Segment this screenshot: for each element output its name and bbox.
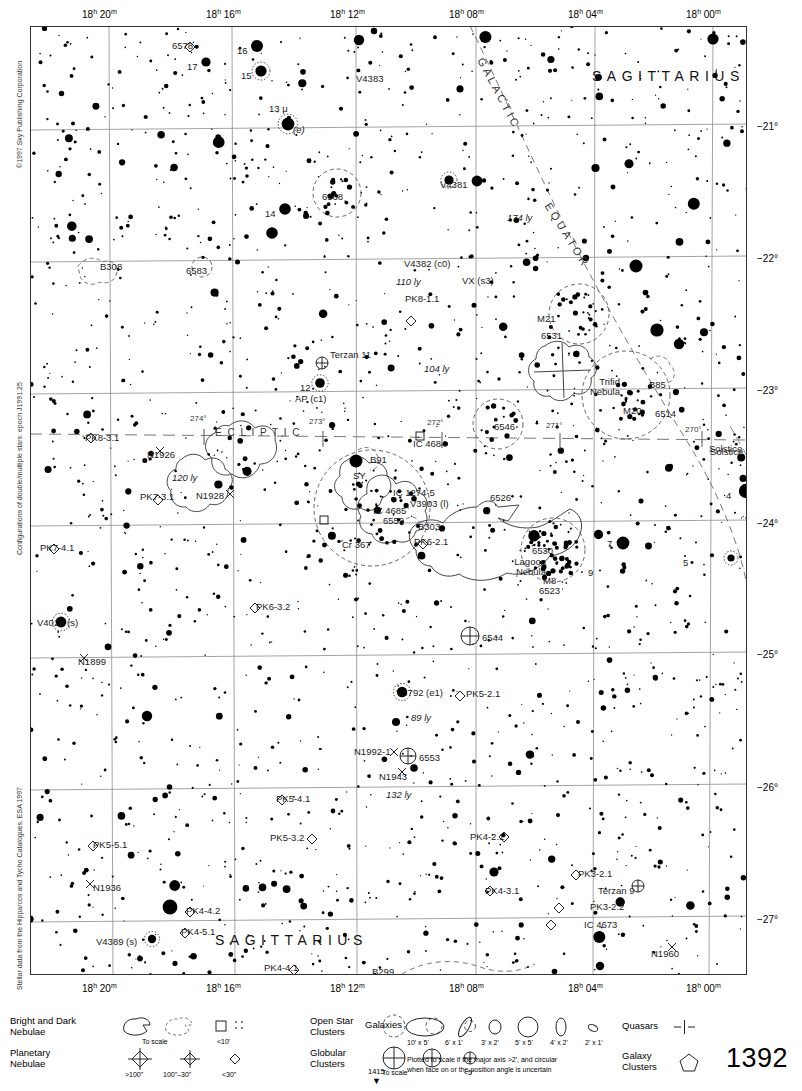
- ra-tick-bottom-1: 18h 16m: [206, 982, 241, 994]
- legend-galaxy-size-2: 3' x 2': [481, 1039, 499, 1046]
- object-label-68: PK5-5.1: [93, 840, 127, 850]
- legend-galaxy-size-4: 4' x 2': [550, 1039, 568, 1046]
- object-label-56: V4028 (s): [37, 618, 78, 628]
- legend-galaxy-size-5: 2' x 1': [585, 1039, 603, 1046]
- object-label-12: B308: [100, 262, 122, 272]
- legend-galaxy-size-0: 10' x 5': [407, 1039, 429, 1046]
- object-label-9: 6568: [322, 192, 343, 202]
- ra-tick-bottom-5: 18h 00m: [686, 982, 721, 994]
- dec-tick-4: −25°: [757, 649, 778, 660]
- legend-galaxy-size-1: 6' x 1': [445, 1039, 463, 1046]
- object-label-31: Solstice: [710, 447, 743, 457]
- legend-planetary-size-0: >100": [125, 1071, 143, 1078]
- page-number: 1392: [726, 1043, 788, 1074]
- object-label-74: PK3-2.2: [590, 902, 624, 912]
- legend-galaxy-note: Plotted to scale if the major axis >2', …: [407, 1055, 557, 1075]
- object-label-24: 12: [300, 383, 311, 393]
- object-label-81: B299: [372, 967, 394, 975]
- object-label-67: PK5-3.2: [270, 833, 304, 843]
- object-label-78: V4389 (s): [96, 937, 137, 947]
- ra-tick-bottom-0: 18h 20m: [82, 982, 117, 994]
- object-label-55: PK6-3.2: [256, 602, 290, 612]
- object-label-26: M20: [623, 406, 641, 416]
- object-label-3: 15: [241, 71, 252, 81]
- legend-globular-clusters-label: Globular Clusters: [310, 1047, 346, 1069]
- object-label-41: 6559: [383, 516, 404, 526]
- object-label-58: N1899: [78, 657, 106, 667]
- object-label-48: 6530: [532, 546, 553, 556]
- ecliptic-tick-271: 271°: [546, 422, 563, 430]
- legend-bright-dark-to-scale: To scale: [142, 1038, 168, 1045]
- sky-svg: [30, 26, 747, 975]
- object-label-79: N1960: [651, 949, 679, 959]
- ra-tick-bottom-4: 18h 04m: [568, 982, 603, 994]
- object-label-52: Lagoon Nebula: [500, 557, 546, 577]
- object-label-15: VX (s3): [462, 276, 494, 286]
- object-label-30: IC 4684: [413, 439, 446, 449]
- object-label-28: 6546: [494, 422, 515, 432]
- dec-tick-5: −26°: [757, 782, 778, 793]
- object-label-76: IC 4673: [584, 920, 617, 930]
- object-label-34: SY: [353, 471, 366, 481]
- legend-quasars-label: Quasars: [622, 1020, 658, 1031]
- object-label-66: PK5-4.1: [276, 794, 310, 804]
- object-label-35: IC 1274-5: [393, 488, 435, 498]
- ecliptic-tick-274: 274°: [190, 415, 207, 423]
- adjacent-chart-number-text: 1415: [368, 1067, 385, 1076]
- ecliptic-tick-273: 273°: [309, 418, 326, 426]
- object-label-50: 9: [588, 568, 593, 578]
- object-label-62: N1992-1: [354, 747, 390, 757]
- ra-tick-top-4: 18h 04m: [568, 8, 603, 20]
- object-label-22: Trifid Nebula: [574, 377, 620, 397]
- object-label-11: 174 ly: [507, 213, 532, 223]
- object-label-25: AP (c1): [295, 394, 327, 404]
- dec-tick-2: −23°: [757, 385, 778, 396]
- ra-tick-top-3: 18h 08m: [449, 8, 484, 20]
- globular-cluster-symbols: [316, 357, 644, 892]
- object-label-16: 110 ly: [396, 277, 421, 287]
- constellation-label-sagittarius-bottom: SAGITTARIUS: [215, 932, 368, 948]
- down-arrow-icon: ▼: [372, 1076, 381, 1086]
- legend-globular-to-scale: To scale: [382, 1069, 408, 1076]
- object-label-49: 7: [607, 539, 612, 549]
- object-label-46: Cr 367: [342, 540, 371, 550]
- legend-bright-dark-nebulae-label: Bright and Dark Nebulae: [10, 1015, 76, 1037]
- object-label-59: V3792 (e1): [396, 688, 443, 698]
- object-label-2: 17: [187, 62, 198, 72]
- object-label-60: PK5-2.1: [466, 689, 500, 699]
- object-label-69: PK4-2.1: [470, 832, 504, 842]
- legend-planetary-size-1: 100"–30": [163, 1071, 191, 1078]
- ra-tick-top-5: 18h 00m: [686, 8, 721, 20]
- object-label-63: 6553: [419, 753, 440, 763]
- object-label-29: PK8-3.1: [85, 433, 119, 443]
- dec-tick-6: −27°: [757, 914, 778, 925]
- ecliptic-label: E C L I P T I C: [215, 428, 301, 438]
- object-label-54: 6523: [539, 586, 560, 596]
- object-label-51: 5: [683, 558, 688, 568]
- ecliptic-tick-272: 272°: [427, 419, 444, 427]
- legend-planetary-size-2: <30": [222, 1071, 236, 1078]
- object-label-39: V3903 (l): [410, 499, 449, 509]
- ra-tick-bottom-3: 18h 08m: [449, 982, 484, 994]
- object-label-27: 6514: [655, 409, 676, 419]
- stellar-data-credit: Stellar data from the Hipparcos and Tych…: [16, 787, 23, 990]
- star-chart-page: ©1997 Sky Publishing Corporation Configu…: [0, 0, 802, 1091]
- object-label-23: B85: [649, 380, 666, 390]
- legend-planetary-nebulae-label: Planetary Nebulae: [10, 1047, 50, 1069]
- object-label-14: V4382 (c0): [404, 259, 450, 269]
- object-label-10: 14: [265, 209, 276, 219]
- ra-tick-top-1: 18h 16m: [206, 8, 241, 20]
- object-label-21: 104 ly: [424, 364, 449, 374]
- legend-galaxy-clusters-label: Galaxy Clusters: [622, 1050, 657, 1072]
- object-label-33: B91: [370, 455, 387, 465]
- object-label-73: PK4-3.1: [485, 886, 519, 896]
- object-label-42: B303: [418, 522, 440, 532]
- object-label-71: Terzan 9: [598, 886, 634, 896]
- object-label-70: PK3-2.1: [578, 869, 612, 879]
- galaxy-cluster-symbol: [678, 1051, 702, 1073]
- object-label-32: N1926: [147, 450, 175, 460]
- dec-tick-0: −21°: [757, 121, 778, 132]
- object-label-6: (e): [293, 125, 305, 135]
- object-label-0: 6578: [172, 41, 193, 51]
- object-label-75: PK4-4.2: [186, 906, 220, 916]
